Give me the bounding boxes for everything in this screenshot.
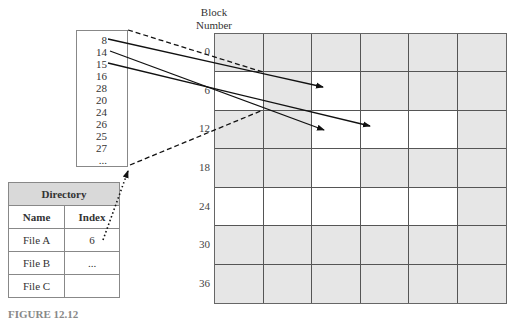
block-10	[409, 72, 458, 110]
block-8	[312, 72, 361, 110]
block-30	[215, 226, 264, 264]
index-entry: 26	[96, 118, 107, 130]
block-26	[312, 188, 361, 226]
block-6	[215, 72, 264, 110]
index-block: 8 14 15 16 28 20 24 26 25 27 ...	[76, 30, 128, 167]
row-label-6: 6	[186, 84, 210, 96]
block-25	[264, 188, 313, 226]
index-entry: 24	[96, 106, 107, 118]
index-entry: 25	[96, 130, 107, 142]
index-entry: 8	[102, 34, 108, 46]
block-9	[361, 72, 410, 110]
column-header-name: Name	[9, 206, 65, 229]
block-1	[264, 34, 313, 72]
block-33	[361, 226, 410, 264]
block-24	[215, 188, 264, 226]
block-7	[264, 72, 313, 110]
row-label-18: 18	[186, 161, 210, 173]
block-0	[215, 34, 264, 72]
block-label-line1: Block	[180, 6, 248, 19]
block-27	[361, 188, 410, 226]
file-name: File B	[9, 252, 65, 275]
file-index: 6	[65, 229, 120, 252]
block-12	[215, 111, 264, 149]
row-label-24: 24	[186, 200, 210, 212]
column-header-index: Index	[65, 206, 120, 229]
file-index: ...	[65, 252, 120, 275]
block-20	[312, 149, 361, 187]
file-name: File C	[9, 275, 65, 298]
block-2	[312, 34, 361, 72]
index-entry: 20	[96, 94, 107, 106]
disk-block-grid	[214, 33, 507, 304]
row-label-30: 30	[186, 238, 210, 250]
index-entry: 14	[96, 46, 107, 58]
index-entry: 15	[96, 58, 107, 70]
block-29	[458, 188, 507, 226]
block-34	[409, 226, 458, 264]
table-row: File B ...	[9, 252, 120, 275]
block-17	[458, 111, 507, 149]
block-16	[409, 111, 458, 149]
block-11	[458, 72, 507, 110]
block-22	[409, 149, 458, 187]
block-18	[215, 149, 264, 187]
block-number-label: Block Number	[180, 6, 248, 32]
index-entry: ...	[99, 154, 107, 166]
directory-table: Directory Name Index File A 6 File B ...…	[8, 182, 120, 298]
block-28	[409, 188, 458, 226]
block-38	[312, 265, 361, 303]
block-41	[458, 265, 507, 303]
figure-caption: FIGURE 12.12	[8, 308, 78, 320]
file-index	[65, 275, 120, 298]
block-14	[312, 111, 361, 149]
block-36	[215, 265, 264, 303]
block-5	[458, 34, 507, 72]
block-19	[264, 149, 313, 187]
block-4	[409, 34, 458, 72]
block-40	[409, 265, 458, 303]
block-23	[458, 149, 507, 187]
block-label-line2: Number	[180, 19, 248, 32]
block-3	[361, 34, 410, 72]
index-entry: 27	[96, 142, 107, 154]
block-15	[361, 111, 410, 149]
block-39	[361, 265, 410, 303]
block-37	[264, 265, 313, 303]
block-13	[264, 111, 313, 149]
block-21	[361, 149, 410, 187]
block-32	[312, 226, 361, 264]
row-label-12: 12	[186, 122, 210, 134]
table-row: File A 6	[9, 229, 120, 252]
index-entry: 16	[96, 70, 107, 82]
row-label-0: 0	[186, 45, 210, 57]
table-row: File C	[9, 275, 120, 298]
block-35	[458, 226, 507, 264]
file-name: File A	[9, 229, 65, 252]
block-31	[264, 226, 313, 264]
index-entry: 28	[96, 82, 107, 94]
directory-title: Directory	[9, 183, 120, 206]
row-label-36: 36	[186, 277, 210, 289]
